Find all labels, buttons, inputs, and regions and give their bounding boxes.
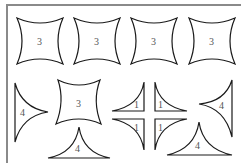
concave-triangle-bottom-right: 4 <box>167 122 232 155</box>
shape-label: 3 <box>209 36 214 47</box>
concave-square-3: 3 <box>131 18 177 64</box>
shape-label: 1 <box>134 99 139 110</box>
shape-label: 1 <box>158 122 163 133</box>
shape-label: 3 <box>151 36 156 47</box>
quarter-piece-bottom-right: 1 <box>155 119 187 150</box>
concave-triangle-right: 4 <box>199 80 232 137</box>
concave-triangle-bottom-left: 4 <box>48 127 110 158</box>
shape-label: 1 <box>134 122 139 133</box>
shape-label: 4 <box>20 107 25 118</box>
shape-label: 4 <box>219 100 224 111</box>
concave-square-4: 3 <box>189 18 235 64</box>
shape-label: 3 <box>76 98 81 109</box>
quarter-piece-bottom-left: 1 <box>112 119 144 150</box>
concave-triangle-left: 4 <box>15 83 48 142</box>
shape-label: 3 <box>94 36 99 47</box>
shapes-svg: 3 3 3 3 4 3 4 1 <box>0 0 241 163</box>
quarter-piece-top-left: 1 <box>112 82 144 111</box>
shape-label: 3 <box>37 36 42 47</box>
quarter-piece-top-right: 1 <box>155 82 187 111</box>
shape-label: 1 <box>158 99 163 110</box>
shape-label: 4 <box>195 140 200 151</box>
concave-square-row2: 3 <box>56 80 101 124</box>
shape-label: 4 <box>75 143 80 154</box>
concave-square-2: 3 <box>74 18 120 64</box>
concave-square-1: 3 <box>17 18 63 64</box>
puzzle-figure: 3 3 3 3 4 3 4 1 <box>0 0 241 163</box>
